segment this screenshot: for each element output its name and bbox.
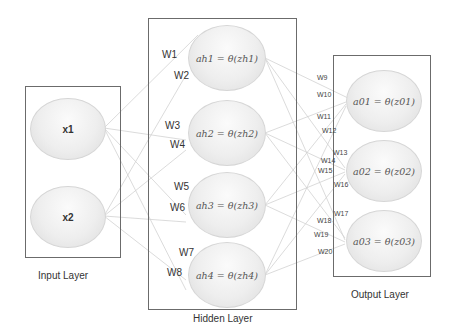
weight-label-w17: W17 — [334, 210, 348, 217]
weight-label-w19: W19 — [314, 231, 328, 238]
weight-label-w18: W18 — [317, 217, 331, 224]
weight-label-w5: W5 — [174, 181, 189, 192]
output-node-label: a03 = θ(z03) — [353, 236, 415, 247]
weight-label-w1: W1 — [162, 49, 177, 60]
output-node-2: a02 = θ(z02) — [346, 140, 422, 202]
input-node-label: x1 — [62, 124, 73, 135]
weight-label-w10: W10 — [317, 91, 331, 98]
hidden-node-1: ah1 = θ(zh1) — [188, 25, 266, 91]
weight-label-w16: W16 — [334, 181, 348, 188]
hidden-layer-label: Hidden Layer — [193, 313, 252, 324]
weight-label-w8: W8 — [167, 267, 182, 278]
output-node-label: a02 = θ(z02) — [353, 166, 415, 177]
neural-network-diagram: x1 x2 Input Layer ah1 = θ(zh1) ah2 = θ(z… — [0, 0, 453, 331]
weight-label-w3: W3 — [165, 120, 180, 131]
input-node-x2: x2 — [30, 186, 106, 248]
output-layer-label: Output Layer — [351, 289, 409, 300]
weight-label-w15: W15 — [318, 167, 332, 174]
weight-label-w4: W4 — [170, 139, 185, 150]
weight-label-w6: W6 — [170, 202, 185, 213]
weight-label-w14: W14 — [321, 157, 335, 164]
weight-label-w11: W11 — [317, 113, 331, 120]
weight-label-w9: W9 — [317, 74, 328, 81]
hidden-node-3: ah3 = θ(zh3) — [188, 172, 266, 238]
hidden-node-label: ah2 = θ(zh2) — [196, 128, 258, 139]
input-layer-label: Input Layer — [38, 270, 88, 281]
output-node-3: a03 = θ(z03) — [346, 210, 422, 272]
weight-label-w12: W12 — [322, 127, 336, 134]
weight-label-w13: W13 — [333, 149, 347, 156]
output-node-label: a01 = θ(z01) — [353, 96, 415, 107]
weight-label-w7: W7 — [179, 247, 194, 258]
hidden-node-label: ah4 = θ(zh4) — [196, 270, 258, 281]
hidden-node-label: ah1 = θ(zh1) — [196, 53, 258, 64]
hidden-node-label: ah3 = θ(zh3) — [196, 200, 258, 211]
output-node-1: a01 = θ(z01) — [346, 70, 422, 132]
input-node-label: x2 — [62, 212, 73, 223]
weight-label-w2: W2 — [174, 70, 189, 81]
hidden-node-2: ah2 = θ(zh2) — [188, 100, 266, 166]
input-node-x1: x1 — [30, 98, 106, 160]
weight-label-w20: W20 — [318, 248, 332, 255]
hidden-node-4: ah4 = θ(zh4) — [188, 242, 266, 308]
